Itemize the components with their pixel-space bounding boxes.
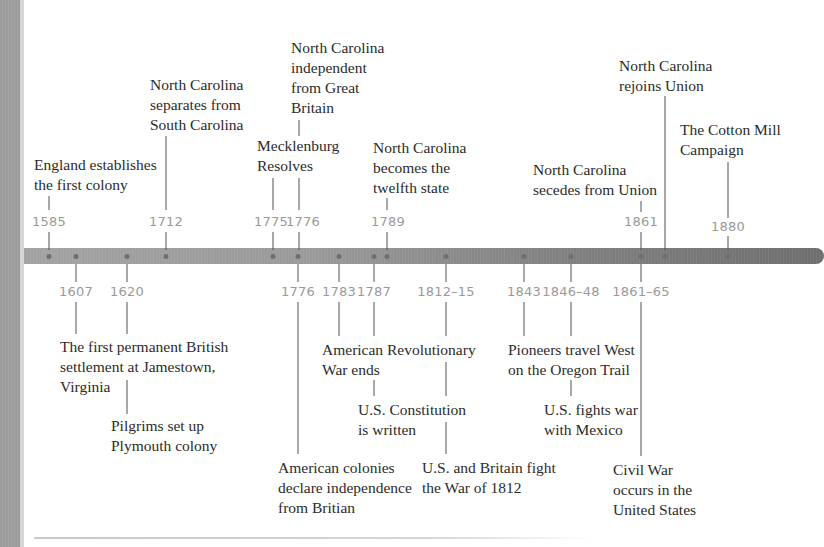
connector-line [339, 264, 340, 282]
page-edge-highlight [20, 0, 24, 547]
event-nc-twelfth-state: North Carolina becomes the twelfth state [373, 138, 466, 198]
connector-line [49, 232, 50, 250]
timeline-marker-1787 [372, 254, 377, 259]
connector-line [641, 264, 642, 282]
connector-line [571, 380, 572, 396]
bottom-divider [34, 537, 594, 539]
connector-line [374, 302, 375, 336]
event-nc-rejoins-union: North Carolina rejoins Union [619, 56, 712, 96]
connector-line [166, 232, 167, 250]
connector-line [127, 302, 128, 334]
year-label-1776-nc: 1776 [286, 214, 320, 229]
timeline-marker-1775 [271, 254, 276, 259]
timeline-marker-1789 [385, 254, 390, 259]
connector-line [524, 302, 525, 336]
year-label-1585: 1585 [32, 214, 66, 229]
connector-line [571, 302, 572, 336]
connector-line [641, 302, 642, 456]
event-nc-secedes: North Carolina secedes from Union [533, 160, 657, 200]
timeline-marker-1783 [337, 254, 342, 259]
connector-line [641, 232, 642, 250]
year-label-1812-15: 1812–15 [417, 284, 475, 299]
connector-line [446, 362, 447, 396]
connector-line [446, 422, 447, 454]
connector-line [524, 264, 525, 282]
year-label-1775: 1775 [254, 214, 288, 229]
connector-line [641, 201, 642, 212]
year-label-1787: 1787 [357, 284, 391, 299]
timeline-marker-1843 [522, 254, 527, 259]
connector-line [76, 264, 77, 282]
year-label-1620: 1620 [110, 284, 144, 299]
year-label-1880: 1880 [711, 219, 745, 234]
timeline-marker-1607 [74, 254, 79, 259]
timeline-marker-1812 [444, 254, 449, 259]
year-label-1712: 1712 [149, 214, 183, 229]
event-constitution-written: U.S. Constitution is written [358, 400, 466, 440]
connector-line [374, 264, 375, 282]
connector-line [49, 196, 50, 210]
event-nc-independent: North Carolina independent from Great Br… [291, 38, 384, 118]
connector-line [665, 96, 666, 250]
event-jamestown: The first permanent British settlement a… [60, 337, 228, 397]
event-mecklenburg-resolves: Mecklenburg Resolves [257, 136, 339, 176]
timeline-marker-1585 [47, 254, 52, 259]
event-mexico-war: U.S. fights war with Mexico [544, 400, 638, 440]
connector-line [339, 302, 340, 336]
event-war-of-1812: U.S. and Britain fight the War of 1812 [422, 458, 556, 498]
year-label-1861-65: 1861–65 [612, 284, 670, 299]
connector-line [387, 198, 388, 210]
year-label-1776-us: 1776 [281, 284, 315, 299]
year-label-1843: 1843 [507, 284, 541, 299]
timeline-bar [24, 248, 824, 264]
year-label-1861: 1861 [624, 214, 658, 229]
connector-line [374, 380, 375, 396]
connector-line [728, 236, 729, 250]
connector-line [299, 178, 300, 210]
connector-line [166, 136, 167, 210]
event-cotton-mill-campaign: The Cotton Mill Campaign [680, 120, 781, 160]
year-label-1607: 1607 [59, 284, 93, 299]
connector-line [127, 380, 128, 414]
timeline-marker-1776 [296, 254, 301, 259]
event-plymouth-colony: Pilgrims set up Plymouth colony [111, 416, 217, 456]
connector-line [127, 264, 128, 282]
event-civil-war: Civil War occurs in the United States [613, 460, 696, 520]
connector-line [273, 232, 274, 250]
event-england-first-colony: England establishes the first colony [34, 155, 157, 195]
timeline-marker-1620 [125, 254, 130, 259]
year-label-1846-48: 1846–48 [542, 284, 600, 299]
connector-line [299, 120, 300, 136]
timeline-marker-rejoins [663, 254, 668, 259]
connector-line [76, 302, 77, 334]
event-declare-independence: American colonies declare independence f… [278, 458, 412, 518]
year-label-1783: 1783 [322, 284, 356, 299]
connector-line [298, 264, 299, 282]
event-revolutionary-war-ends: American Revolutionary War ends [322, 340, 476, 380]
connector-line [387, 232, 388, 250]
connector-line [571, 264, 572, 282]
timeline-marker-1880 [726, 254, 731, 259]
connector-line [298, 302, 299, 454]
event-oregon-trail: Pioneers travel West on the Oregon Trail [508, 340, 635, 380]
connector-line [728, 162, 729, 218]
timeline-marker-1712 [164, 254, 169, 259]
connector-line [273, 178, 274, 210]
connector-line [446, 264, 447, 282]
year-label-1789: 1789 [371, 214, 405, 229]
connector-line [299, 232, 300, 250]
connector-line [446, 302, 447, 336]
event-nc-separates: North Carolina separates from South Caro… [150, 75, 243, 135]
timeline-marker-1846 [569, 254, 574, 259]
timeline-marker-1861 [639, 254, 644, 259]
page-edge-stripe [0, 0, 20, 547]
